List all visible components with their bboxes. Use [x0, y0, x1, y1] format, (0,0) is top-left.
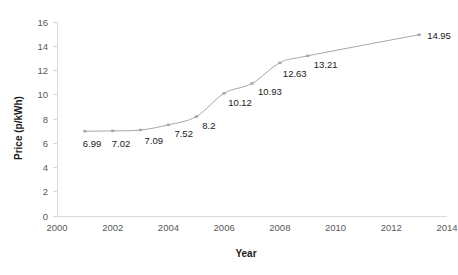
data-point-marker	[83, 130, 86, 132]
y-tick-label: 16	[37, 17, 48, 28]
data-point-label: 14.95	[427, 30, 451, 41]
x-tick-label: 2000	[46, 222, 67, 233]
y-tick-label: 14	[37, 41, 48, 52]
x-tick-label: 2012	[381, 222, 402, 233]
x-tick-label: 2002	[102, 222, 123, 233]
data-point-label: 12.63	[283, 68, 307, 79]
x-tick-label: 2008	[269, 222, 290, 233]
y-axis-title: Price (p/kWh)	[13, 96, 24, 160]
data-point-label: 6.99	[83, 138, 102, 149]
x-axis-title: Year	[235, 248, 256, 259]
data-point-marker	[167, 124, 170, 126]
data-point-marker	[223, 92, 226, 94]
data-point-marker	[278, 62, 281, 64]
data-point-label: 13.21	[314, 59, 338, 70]
y-tick-label: 8	[43, 114, 48, 125]
y-axis-tick-labels: 0246810121416	[37, 17, 48, 222]
x-tick-label: 2014	[436, 222, 457, 233]
y-tick-label: 0	[43, 211, 48, 222]
data-point-marker	[195, 115, 198, 117]
x-tick-label: 2010	[325, 222, 346, 233]
y-tick-label: 6	[43, 138, 48, 149]
data-point-marker	[306, 55, 309, 57]
data-point-marker	[139, 129, 142, 131]
data-point-label: 10.12	[228, 97, 252, 108]
x-tick-label: 2004	[158, 222, 179, 233]
data-point-markers	[83, 34, 420, 133]
y-tick-label: 4	[43, 162, 48, 173]
data-point-labels: 6.997.027.097.528.210.1210.9312.6313.211…	[83, 30, 451, 150]
y-tick-label: 12	[37, 65, 48, 76]
data-point-marker	[250, 82, 253, 84]
data-point-label: 7.52	[174, 128, 193, 139]
y-axis-ticks	[53, 22, 57, 216]
data-point-marker	[111, 130, 114, 132]
x-axis-tick-labels: 20002002200420062008201020122014	[46, 222, 457, 233]
data-point-label: 10.93	[258, 86, 282, 97]
chart-container: 0246810121416 20002002200420062008201020…	[0, 0, 458, 275]
data-point-label: 7.09	[145, 135, 164, 146]
data-point-marker	[418, 34, 421, 36]
y-tick-label: 10	[37, 89, 48, 100]
line-chart: 0246810121416 20002002200420062008201020…	[0, 0, 458, 275]
y-tick-label: 2	[43, 186, 48, 197]
data-point-label: 7.02	[112, 138, 130, 149]
data-point-label: 8.2	[202, 120, 215, 131]
x-tick-label: 2006	[214, 222, 235, 233]
